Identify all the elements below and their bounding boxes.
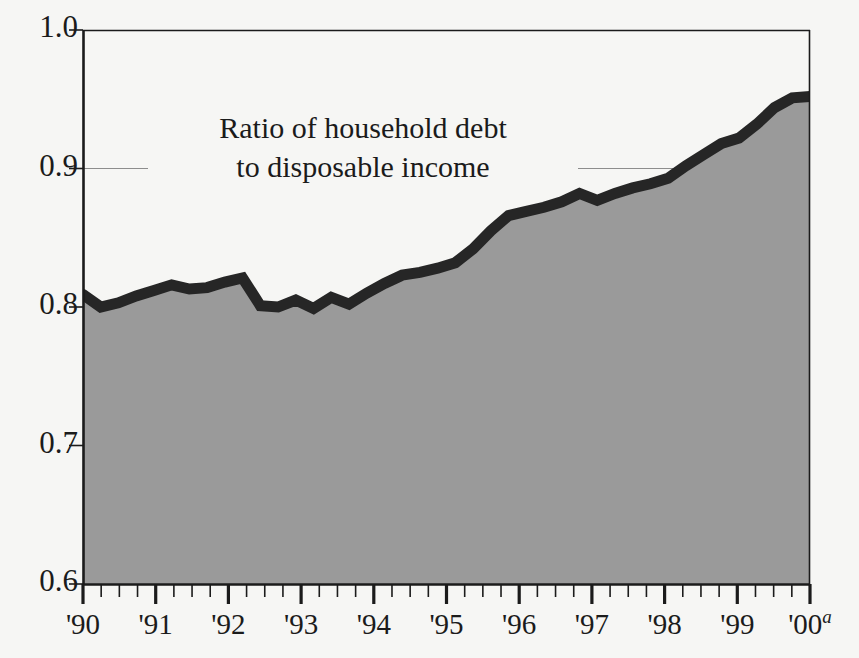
y-axis-tick-label: 0.6	[0, 563, 78, 599]
figure-canvas: 0.60.70.80.91.0 '90'91'92'93'94'95'96'97…	[0, 0, 859, 658]
x-axis-ticks	[83, 584, 810, 604]
series-annotation-line-1: Ratio of household debt	[148, 108, 578, 147]
y-axis-tick-label: 1.0	[0, 9, 78, 45]
series-annotation-line-2: to disposable income	[148, 147, 578, 186]
chart-plot-area	[0, 0, 859, 658]
x-axis-tick-footnote-marker: a	[822, 606, 832, 627]
series-annotation: Ratio of household debt to disposable in…	[148, 108, 578, 186]
y-axis-tick-label: 0.8	[0, 286, 78, 322]
x-axis-tick-label: '00a	[765, 608, 855, 641]
y-axis-tick-label: 0.9	[0, 148, 78, 184]
y-axis-tick-label: 0.7	[0, 425, 78, 461]
